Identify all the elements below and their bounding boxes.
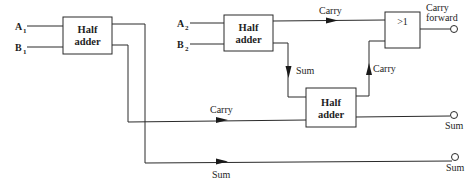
ha2-sum-label: Sum [296,65,315,76]
sum-lower-terminal-icon [452,154,459,161]
half-adder-1-label-line2: adder [74,36,101,47]
input-b2: B 2 [177,39,224,53]
sum-upper-label: Sum [445,120,464,131]
sum-upper-terminal-icon [451,112,458,119]
sum-lower-label: Sum [446,162,465,173]
ha1-carry-label: Carry [210,104,233,115]
half-adder-2-label-line2: adder [235,34,262,45]
input-b1: B 1 [15,42,63,56]
input-a2-subscript: 2 [185,24,189,32]
half-adder-1: Half adder [63,17,112,54]
input-a1-subscript: 1 [23,27,27,35]
ha3-carry-label: Carry [373,63,396,74]
half-adder-3-label-line2: adder [318,109,345,120]
ha3-sum-wire [356,116,450,117]
half-adder-1-label-line1: Half [78,24,98,35]
half-adder-3: Half adder [306,88,356,127]
input-b2-label: B [177,39,184,50]
ha2-sum-arrow-icon [286,66,292,78]
ha1-sum-label: Sum [212,169,231,180]
ha3-carry-arrow-icon [366,63,372,75]
half-adder-2-label-line1: Half [239,22,259,33]
half-adder-3-label-line1: Half [321,97,341,108]
half-adder-2: Half adder [224,15,273,51]
input-a2-label: A [177,18,185,29]
circuit-diagram: Half adder A 1 B 1 Sum Carry Half adder … [0,0,475,186]
ha1-sum-arrow-icon [216,159,228,165]
input-b2-subscript: 2 [185,45,189,53]
half-adder-2-box [224,15,273,51]
input-a2: A 2 [177,18,224,32]
input-a1: A 1 [15,21,63,35]
ha1-carry-arrow-icon [216,117,228,123]
carry-forward-label-line2: forward [426,12,458,23]
or-gate: >1 [385,12,420,48]
ha1-carry-wire [112,45,306,122]
ha2-carry-arrow-icon [326,18,338,24]
ha2-carry-label: Carry [319,5,342,16]
input-a1-label: A [15,21,23,32]
input-b1-label: B [15,42,22,53]
carry-forward-terminal-icon [451,26,458,33]
or-gate-label: >1 [397,16,408,27]
input-b1-subscript: 1 [23,48,27,56]
